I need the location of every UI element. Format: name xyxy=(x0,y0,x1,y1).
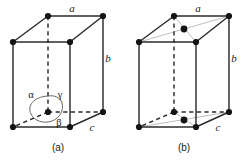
axis-label-b: b xyxy=(231,52,237,64)
dot-front-bottom-left xyxy=(10,124,16,130)
figure-container: a b c α γ β (a) xyxy=(0,0,252,160)
crystal-lattice-figure: a b c α γ β (a) xyxy=(0,0,252,160)
dot-front-bottom-right xyxy=(67,124,73,130)
axis-label-a: a xyxy=(69,2,75,14)
edge-bottom-right-receding xyxy=(196,112,229,127)
axis-label-c: c xyxy=(90,121,95,133)
dot-back-bottom-right xyxy=(100,109,106,115)
edge-top-left-receding xyxy=(13,16,48,42)
dot-back-bottom-left xyxy=(171,109,177,115)
axis-label-b: b xyxy=(105,52,111,64)
dot-back-top-left xyxy=(45,13,51,19)
hidden-edge-back-bottom-left-to-front-bottom-left xyxy=(139,112,174,127)
caption-panel-b: (b) xyxy=(178,142,190,153)
dot-front-top-right xyxy=(193,39,199,45)
dot-front-top-left xyxy=(136,39,142,45)
angle-label-beta: β xyxy=(56,117,61,128)
panel-a-top-face-edges xyxy=(13,16,103,42)
dot-front-top-left xyxy=(10,39,16,45)
angle-label-gamma: γ xyxy=(57,89,63,100)
edge-top-right-receding xyxy=(70,16,103,42)
edge-top-right-receding xyxy=(196,16,229,42)
dot-front-bottom-right xyxy=(193,124,199,130)
dot-bottom-face-center xyxy=(181,117,188,124)
dot-back-top-left xyxy=(171,13,177,19)
axis-label-a: a xyxy=(195,2,201,14)
dot-back-top-right xyxy=(226,13,232,19)
edge-bottom-right-receding xyxy=(70,112,103,127)
hidden-edge-origin-to-front-bottom-left xyxy=(13,112,48,127)
caption-panel-a: (a) xyxy=(52,142,64,153)
angle-label-alpha: α xyxy=(28,89,34,100)
axis-label-c: c xyxy=(216,121,221,133)
dot-back-top-right xyxy=(100,13,106,19)
dot-origin xyxy=(45,109,51,115)
dot-back-bottom-right xyxy=(226,109,232,115)
panel-a-group: a b c α γ β (a) xyxy=(10,2,111,153)
dot-top-face-center xyxy=(181,26,188,33)
dot-front-top-right xyxy=(67,39,73,45)
panel-b-face-center-dots xyxy=(181,26,188,124)
panel-b-group: a b c (b) xyxy=(136,2,237,153)
edge-top-left-receding xyxy=(139,16,174,42)
dot-front-bottom-left xyxy=(136,124,142,130)
